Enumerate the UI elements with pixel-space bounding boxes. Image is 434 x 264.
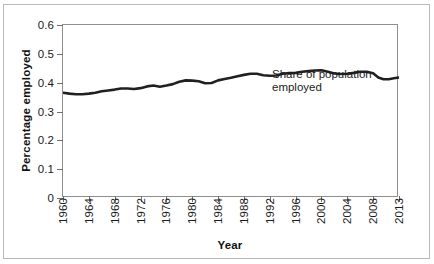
x-axis-tick-label: 1976 — [160, 198, 172, 224]
x-axis-tick-label: 1972 — [135, 198, 147, 224]
y-axis-tick-label: 0 — [48, 192, 55, 204]
x-axis-tick-label-wrap: 2013 — [393, 198, 405, 224]
x-axis-tick-label: 1992 — [264, 198, 276, 224]
x-axis-tick-label-wrap: 2000 — [315, 198, 327, 224]
figure-container: Percentage employed 00.10.20.30.40.50.61… — [0, 0, 434, 264]
x-axis-tick-label: 1968 — [109, 198, 121, 224]
x-axis-tick-label: 2013 — [393, 198, 405, 224]
x-axis-tick-label-wrap: 1980 — [186, 198, 198, 224]
x-axis-tick-label-wrap: 1992 — [264, 198, 276, 224]
x-axis-tick-label-wrap: 1996 — [290, 198, 302, 224]
y-axis-tick-label: 0.3 — [38, 106, 54, 118]
y-axis-tick-mark — [57, 169, 63, 170]
x-axis-tick-label-wrap: 1968 — [109, 198, 121, 224]
y-axis-tick-label: 0.1 — [38, 163, 54, 175]
y-axis-tick-mark — [57, 112, 63, 113]
y-axis-tick-label: 0.6 — [38, 19, 54, 31]
x-axis-tick-label-wrap: 2004 — [341, 198, 353, 224]
x-axis-tick-label-wrap: 1964 — [83, 198, 95, 224]
y-axis-tick-mark — [57, 83, 63, 84]
x-axis-tick-label: 2000 — [315, 198, 327, 224]
line-series-svg — [63, 25, 399, 198]
x-axis-tick-label-wrap: 1984 — [212, 198, 224, 224]
y-axis-tick-label: 0.2 — [38, 134, 54, 146]
x-axis-tick-label: 1964 — [83, 198, 95, 224]
x-axis-tick-label-wrap: 1960 — [57, 198, 69, 224]
x-axis-tick-label: 1984 — [212, 198, 224, 224]
y-axis-tick-label: 0.5 — [38, 48, 54, 60]
x-axis-title: Year — [62, 239, 398, 251]
series-annotation: Share of population employed — [272, 68, 372, 94]
y-axis-tick-mark — [57, 25, 63, 26]
x-axis-tick-label-wrap: 1988 — [238, 198, 250, 224]
series-annotation-line2: employed — [272, 81, 372, 94]
y-axis-tick-label: 0.4 — [38, 77, 54, 89]
y-axis-title: Percentage employed — [20, 24, 36, 197]
y-axis-tick-mark — [57, 54, 63, 55]
x-axis-tick-label-wrap: 1972 — [135, 198, 147, 224]
plot-area: 00.10.20.30.40.50.6196019641968197219761… — [62, 24, 398, 197]
x-axis-tick-label: 1980 — [186, 198, 198, 224]
x-axis-tick-label: 1996 — [290, 198, 302, 224]
x-axis-tick-label: 2008 — [367, 198, 379, 224]
x-axis-tick-label-wrap: 1976 — [160, 198, 172, 224]
series-annotation-line1: Share of population — [272, 68, 372, 81]
y-axis-tick-mark — [57, 140, 63, 141]
x-axis-tick-label: 2004 — [341, 198, 353, 224]
x-axis-tick-label-wrap: 2008 — [367, 198, 379, 224]
x-axis-tick-label: 1960 — [57, 198, 69, 224]
x-axis-tick-label: 1988 — [238, 198, 250, 224]
